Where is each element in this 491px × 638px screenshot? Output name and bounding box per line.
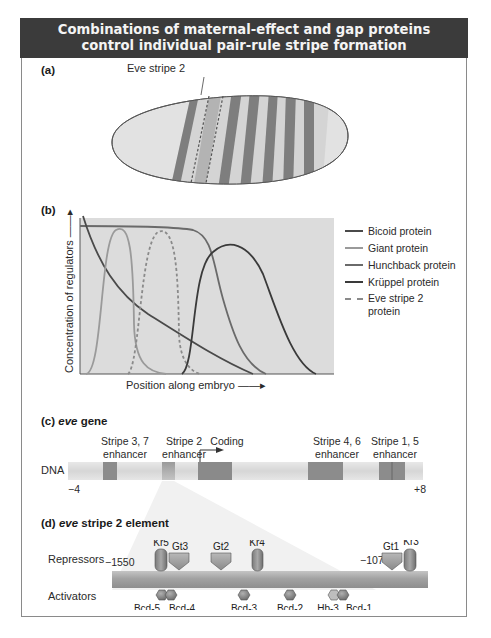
embryo-diagram — [100, 70, 360, 195]
repressor-kr3: Kr3 — [403, 540, 419, 571]
activators-row-label: Activators — [48, 590, 96, 602]
giant-site-icon — [211, 553, 231, 570]
activator-hb-3: Hb-3 — [317, 590, 340, 610]
repressors-row-label: Repressors — [48, 553, 104, 565]
enhancer-stripe-2 — [162, 462, 175, 480]
panel-d-label: (d) eve stripe 2 element — [41, 517, 169, 529]
legend-item-hunchback: Hunchback protein — [345, 256, 456, 273]
panel-c-suffix: gene — [81, 415, 108, 427]
activator-label: Bcd-5 — [134, 603, 161, 610]
repressor-label: Gt1 — [383, 541, 400, 552]
bicoid-site-icon — [165, 590, 177, 600]
legend-label: Giant protein — [368, 242, 428, 254]
kruppel-site-icon — [155, 549, 167, 571]
chart-legend: Bicoid protein Giant protein Hunchback p… — [345, 222, 456, 322]
y-axis-arrow-icon: ——▸ — [63, 209, 75, 237]
figure-title-bar: Combinations of maternal-effect and gap … — [20, 18, 468, 58]
legend-item-eve-stripe-2: Eve stripe 2 protein — [345, 290, 456, 322]
panel-d-suffix: stripe 2 element — [81, 517, 169, 529]
activator-bcd-2: Bcd-2 — [277, 590, 304, 610]
legend-swatch-icon — [345, 281, 363, 283]
panel-a-label: (a) — [41, 64, 55, 76]
coding-region — [198, 462, 232, 480]
legend-label-line-2: protein — [368, 305, 400, 317]
panel-d-gene-name: eve — [59, 517, 78, 529]
x-axis-label-text: Position along embryo — [126, 379, 235, 391]
pair-rule-stripes — [170, 90, 330, 190]
kruppel-site-icon — [404, 549, 416, 571]
panel-c-label: (c) eve gene — [41, 415, 108, 427]
legend-label: Hunchback protein — [368, 259, 456, 271]
legend-item-kruppel: Krüppel protein — [345, 273, 456, 290]
legend-label-line-1: Eve stripe 2 — [368, 292, 423, 304]
kruppel-site-icon — [252, 549, 263, 571]
transcription-start-arrow-icon — [200, 450, 218, 462]
bicoid-site-icon — [284, 590, 296, 600]
repressor-label: Kr5 — [153, 540, 169, 548]
legend-item-bicoid: Bicoid protein — [345, 222, 456, 239]
x-axis-arrow-icon: ——▸ — [238, 379, 266, 391]
repressor-gt2: Gt2 — [211, 541, 231, 570]
legend-label: Krüppel protein — [368, 276, 439, 288]
activator-label: Bcd-2 — [277, 603, 304, 610]
legend-swatch-icon — [345, 230, 363, 232]
dna-left-coordinate: −4 — [68, 483, 80, 495]
title-line-2: control individual pair-rule stripe form… — [20, 38, 468, 54]
bicoid-site-icon — [238, 590, 250, 600]
activator-bcd-3: Bcd-3 — [231, 590, 258, 610]
panel-b-label: (b) — [41, 204, 56, 216]
legend-swatch-icon — [345, 247, 363, 249]
y-axis-label: Concentration of regulators ——▸ — [63, 223, 76, 373]
panel-c-gene-name: eve — [58, 415, 77, 427]
repressor-label: Kr4 — [249, 540, 265, 548]
panel-d-letter: (d) — [41, 517, 56, 529]
enhancer-stripe-4-6 — [308, 462, 343, 480]
repressor-label: Gt3 — [172, 541, 189, 552]
legend-swatch-icon — [345, 264, 363, 266]
legend-swatch-dashed-icon — [345, 298, 363, 300]
title-line-1: Combinations of maternal-effect and gap … — [20, 22, 468, 38]
dna-bar — [68, 462, 423, 480]
concentration-chart — [78, 214, 338, 378]
activator-bcd-1: Bcd-1 — [337, 590, 372, 610]
activator-label: Bcd-1 — [346, 603, 373, 610]
legend-label: Bicoid protein — [368, 225, 432, 237]
repressor-kr4: Kr4 — [249, 540, 265, 571]
stripe-2-element-diagram: Kr5 Gt3 Gt2 Kr4 Gt1 Kr3 Bcd-5 Bcd-4 Bcd-… — [100, 540, 440, 610]
transcription-arrowhead-icon — [216, 447, 224, 453]
repressor-gt3: Gt3 — [169, 541, 189, 570]
y-axis-label-text: Concentration of regulators — [63, 240, 75, 373]
repressor-label: Gt2 — [213, 541, 230, 552]
repressor-kr5: Kr5 — [153, 540, 169, 571]
repressor-label: Kr3 — [403, 540, 419, 547]
stripe-2-element-bar — [112, 571, 428, 588]
x-axis-label: Position along embryo ——▸ — [126, 379, 266, 392]
activator-bcd-5: Bcd-5 — [134, 590, 168, 610]
dna-right-coordinate: +8 — [414, 483, 426, 495]
giant-site-icon — [169, 553, 189, 570]
activator-label: Hb-3 — [317, 603, 339, 610]
legend-label: Eve stripe 2 protein — [368, 292, 423, 318]
giant-site-icon — [382, 553, 402, 570]
activator-label: Bcd-4 — [169, 603, 196, 610]
legend-item-giant: Giant protein — [345, 239, 456, 256]
activator-label: Bcd-3 — [231, 603, 258, 610]
repressor-gt1: Gt1 — [382, 541, 402, 570]
activator-bcd-4: Bcd-4 — [165, 590, 195, 610]
enhancer-stripe-3-7 — [103, 462, 117, 480]
panel-c-letter: (c) — [41, 415, 55, 427]
bicoid-site-icon — [337, 590, 349, 600]
